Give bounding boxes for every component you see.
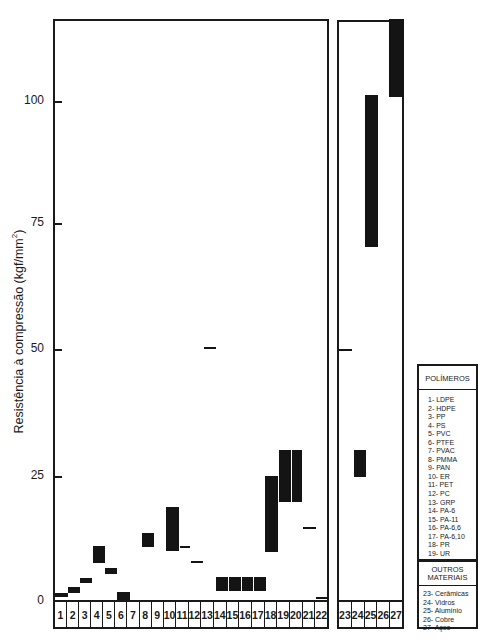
category-4: 4 — [91, 602, 103, 627]
bar-14-pa6 — [216, 577, 228, 591]
category-24: 24 — [352, 602, 365, 627]
bar-19-ur — [279, 450, 291, 502]
category-15: 15 — [227, 602, 240, 627]
legend-item: 19- UR — [428, 550, 476, 559]
legend-item: 3- PP — [428, 413, 476, 422]
legend-item: 7- PVAC — [428, 447, 476, 456]
legend-other-title: OUTROS MATERIAIS — [419, 562, 476, 586]
category-21: 21 — [303, 602, 316, 627]
y-tick-label-75: 75 — [14, 215, 44, 229]
bar-5-pvc — [105, 568, 117, 574]
bar-15-pa11 — [229, 577, 241, 591]
legend-item: 11- PET — [428, 481, 476, 490]
bar-17-pa610 — [254, 577, 266, 591]
category-22: 22 — [315, 602, 327, 627]
bar-23-ceramicas — [339, 349, 352, 351]
legend-item: 1- LDPE — [428, 396, 476, 405]
y-tick-label-0: 0 — [14, 593, 44, 607]
bar-1-ldpe — [55, 593, 68, 597]
legend-item: 27- Aços — [423, 624, 476, 633]
bar-13-grp — [204, 347, 216, 349]
other-category-row: 23 24 25 26 27 — [337, 600, 404, 629]
y-tick-100 — [55, 101, 62, 103]
category-13: 13 — [201, 602, 214, 627]
bar-2-hdpe — [68, 587, 80, 593]
polymers-plot-panel — [53, 19, 329, 629]
legend-other-list: 23- Cerâmicas 24- Vidros 25- Alumínio 26… — [419, 586, 476, 636]
category-23: 23 — [339, 602, 352, 627]
bar-12-pc — [191, 561, 203, 563]
category-3: 3 — [79, 602, 91, 627]
category-12: 12 — [189, 602, 202, 627]
bar-10-er — [166, 507, 179, 551]
y-tick-50 — [55, 349, 62, 351]
bar-4-ps — [93, 546, 105, 563]
y-tick-label-100: 100 — [14, 93, 44, 107]
category-14: 14 — [214, 602, 227, 627]
bar-20-mr — [292, 450, 302, 502]
y-tick-25 — [55, 476, 62, 478]
bar-24-vidros — [354, 450, 366, 477]
bar-18-pr — [265, 476, 278, 552]
category-18: 18 — [265, 602, 278, 627]
category-19: 19 — [277, 602, 290, 627]
legend-item: 10- ER — [428, 473, 476, 482]
legend-item: 24- Vidros — [423, 599, 476, 608]
legend-item: 5- PVC — [428, 430, 476, 439]
legend-item: 25- Alumínio — [423, 607, 476, 616]
category-26: 26 — [377, 602, 390, 627]
bar-27-acos — [389, 19, 404, 97]
bar-21-pu — [303, 527, 316, 529]
y-axis-title: Resistência à compressão (kgf/mm2) — [10, 202, 25, 462]
legend-polymers-title: POLÍMEROS — [419, 366, 476, 390]
category-27: 27 — [390, 602, 402, 627]
category-16: 16 — [239, 602, 252, 627]
legend-item: 17- PA-6,10 — [428, 533, 476, 542]
category-25: 25 — [365, 602, 378, 627]
legend-item: 8- PMMA — [428, 456, 476, 465]
legend-item: 14- PA-6 — [428, 507, 476, 516]
category-5: 5 — [103, 602, 115, 627]
legend-item: 18- PR — [428, 541, 476, 550]
legend-item: 15- PA-11 — [428, 516, 476, 525]
category-10: 10 — [164, 602, 177, 627]
y-tick-label-25: 25 — [14, 468, 44, 482]
legend-polymers: POLÍMEROS 1- LDPE 2- HDPE 3- PP 4- PS 5-… — [417, 364, 478, 561]
polymer-category-row: 1 2 3 4 5 6 7 8 9 10 11 12 13 14 15 16 1… — [53, 600, 329, 629]
legend-other-materials: OUTROS MATERIAIS 23- Cerâmicas 24- Vidro… — [417, 560, 478, 629]
category-7: 7 — [127, 602, 139, 627]
legend-item: 16- PA-6,6 — [428, 524, 476, 533]
category-17: 17 — [252, 602, 265, 627]
bar-22-nr — [316, 597, 328, 599]
legend-item: 23- Cerâmicas — [423, 590, 476, 599]
bar-3-pp — [80, 578, 92, 583]
bar-8-pmma — [142, 533, 154, 547]
y-tick-75 — [55, 223, 62, 225]
category-2: 2 — [67, 602, 79, 627]
legend-item: 6- PTFE — [428, 439, 476, 448]
category-1: 1 — [55, 602, 67, 627]
y-tick-label-50: 50 — [14, 341, 44, 355]
category-11: 11 — [176, 602, 188, 627]
category-6: 6 — [115, 602, 127, 627]
bar-16-pa66 — [242, 577, 253, 591]
legend-item: 13- GRP — [428, 499, 476, 508]
legend-item: 2- HDPE — [428, 405, 476, 414]
category-9: 9 — [152, 602, 164, 627]
bar-25-aluminio — [365, 95, 378, 247]
bar-11-pet — [180, 546, 190, 548]
category-20: 20 — [290, 602, 303, 627]
legend-item: 9- PAN — [428, 464, 476, 473]
category-8: 8 — [140, 602, 152, 627]
legend-item: 12- PC — [428, 490, 476, 499]
legend-item: 4- PS — [428, 422, 476, 431]
legend-item: 26- Cobre — [423, 616, 476, 625]
